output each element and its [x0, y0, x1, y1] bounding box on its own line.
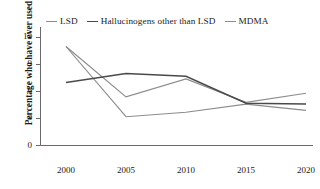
- plot-area: [0, 0, 320, 189]
- series-line-lsd: [66, 47, 306, 103]
- y-axis-ticks: [36, 38, 41, 146]
- line-chart: LSD Hallucinogens other than LSD MDMA Pe…: [0, 0, 320, 189]
- series-line-mdma: [66, 47, 306, 117]
